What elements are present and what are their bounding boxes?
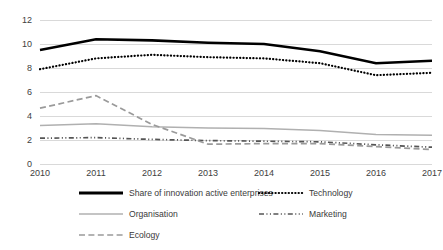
legend-item-ecology[interactable]: Ecology: [78, 228, 160, 242]
gridline-group: [40, 20, 432, 164]
legend-label: Ecology: [129, 230, 160, 240]
x-tick-label: 2014: [241, 168, 287, 178]
legend-item-share-of-innovation-active-enterprises[interactable]: Share of innovation active enterprises: [78, 186, 273, 200]
series-line-ecology: [40, 96, 432, 150]
legend-item-organisation[interactable]: Organisation: [78, 207, 178, 221]
legend-swatch-dashed-icon: [78, 229, 124, 241]
series-line-technology: [40, 55, 432, 75]
legend-item-technology[interactable]: Technology: [258, 186, 352, 200]
y-tick-label: 4: [10, 111, 32, 121]
chart-legend: Share of innovation active enterprisesTe…: [0, 186, 443, 250]
y-tick-label: 8: [10, 63, 32, 73]
x-tick-label: 2010: [17, 168, 63, 178]
x-tick-label: 2017: [409, 168, 443, 178]
x-tick-label: 2011: [73, 168, 119, 178]
series-line-share-of-innovation-active-enterprises: [40, 39, 432, 63]
y-tick-label: 2: [10, 135, 32, 145]
legend-swatch-solid-thick-icon: [78, 187, 124, 199]
x-tick-label: 2015: [297, 168, 343, 178]
series-group: [40, 39, 432, 149]
line-chart: 121086420 201020112012201320142015201620…: [0, 0, 443, 250]
legend-label: Marketing: [309, 209, 347, 219]
series-line-organisation: [40, 124, 432, 135]
y-tick-label: 6: [10, 87, 32, 97]
legend-label: Organisation: [129, 209, 178, 219]
legend-swatch-solid-thin-icon: [78, 208, 124, 220]
y-tick-label: 10: [10, 39, 32, 49]
legend-swatch-dotted-icon: [258, 187, 304, 199]
series-line-marketing: [40, 138, 432, 148]
x-tick-label: 2013: [185, 168, 231, 178]
legend-label: Share of innovation active enterprises: [129, 188, 273, 198]
x-tick-label: 2016: [353, 168, 399, 178]
x-tick-label: 2012: [129, 168, 175, 178]
legend-swatch-dash-dot-dot-icon: [258, 208, 304, 220]
legend-item-marketing[interactable]: Marketing: [258, 207, 347, 221]
y-tick-label: 12: [10, 15, 32, 25]
legend-label: Technology: [309, 188, 352, 198]
